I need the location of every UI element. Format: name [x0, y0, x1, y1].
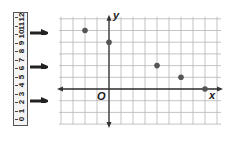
y-axis-arrow-down-icon — [107, 122, 112, 128]
data-point — [106, 39, 112, 45]
data-point — [202, 86, 208, 92]
x-axis-arrow-left-icon — [57, 87, 63, 92]
data-point — [154, 63, 160, 69]
origin-label: O — [97, 90, 106, 102]
x-axis-label: x — [209, 89, 215, 101]
y-axis-label: y — [113, 9, 119, 21]
coordinate-plane — [0, 0, 230, 141]
data-point — [82, 28, 88, 34]
data-point — [178, 75, 184, 81]
x-axis-arrow-right-icon — [217, 87, 223, 92]
y-axis-arrow-up-icon — [107, 15, 112, 21]
